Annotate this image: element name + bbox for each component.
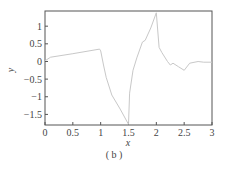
figure-caption: ( b )	[0, 149, 228, 160]
x-tick-label: 3	[210, 127, 215, 138]
y-tick-label: −0.5	[24, 74, 42, 85]
line-chart: 00.511.522.53 10.50−0.5−1−1.5 x y	[0, 0, 228, 171]
x-axis-label: x	[125, 137, 131, 148]
y-tick-label: −1.5	[24, 109, 42, 120]
y-axis-label: y	[5, 67, 16, 73]
x-tick-label: 0	[43, 127, 48, 138]
data-line	[45, 13, 212, 125]
plot-frame	[45, 11, 212, 125]
x-tick-label: 1	[98, 127, 103, 138]
y-tick-label: 1	[37, 21, 42, 32]
x-tick-label: 2.5	[178, 127, 191, 138]
x-tick-label: 0.5	[67, 127, 80, 138]
y-tick-label: 0.5	[30, 38, 43, 49]
y-tick-label: −1	[31, 91, 42, 102]
y-tick-label: 0	[37, 56, 42, 67]
y-axis-ticks: 10.50−0.5−1−1.5	[24, 21, 48, 120]
x-tick-label: 2	[154, 127, 159, 138]
